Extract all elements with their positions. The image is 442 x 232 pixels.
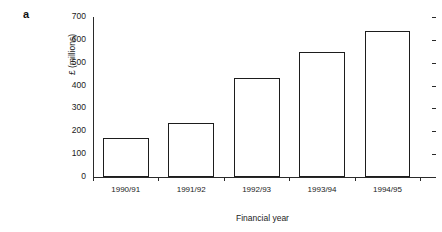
x-tick-mark [289,177,290,181]
x-axis-title: Financial year [93,213,432,223]
x-tick-mark [158,177,159,181]
y-tick-label: 300 [72,102,86,112]
bar [103,138,149,177]
bar [168,123,214,177]
y-tick-mark [432,177,436,178]
x-tick-label: 1990/91 [93,185,158,194]
y-tick-mark [432,40,436,41]
y-axis-title: £ (millions) [67,0,77,75]
y-tick-label: 200 [72,125,86,135]
y-tick-label: 100 [72,148,86,158]
x-tick-mark [355,177,356,181]
y-tick-mark [432,17,436,18]
bar-chart-figure: a 0100200300400500600700 1990/911991/921… [0,0,442,232]
x-tick-mark [420,177,421,181]
x-tick-mark [224,177,225,181]
y-tick-mark [432,154,436,155]
x-tick-label: 1991/92 [158,185,223,194]
x-tick-mark [93,177,94,181]
bar [234,78,280,177]
x-tick-label: 1992/93 [224,185,289,194]
y-tick-mark [432,108,436,109]
y-axis-line [93,17,94,177]
y-tick-mark [432,86,436,87]
bar [299,52,345,177]
y-tick-label: 0 [81,171,86,181]
panel-letter-label: a [23,9,29,20]
bar [365,31,411,177]
y-tick-label: 400 [72,80,86,90]
x-tick-label: 1994/95 [355,185,420,194]
plot-area: 0100200300400500600700 1990/911991/92199… [93,17,432,177]
x-tick-label: 1993/94 [289,185,354,194]
y-tick-mark [432,63,436,64]
x-axis-line [93,177,432,178]
y-tick-mark [432,131,436,132]
